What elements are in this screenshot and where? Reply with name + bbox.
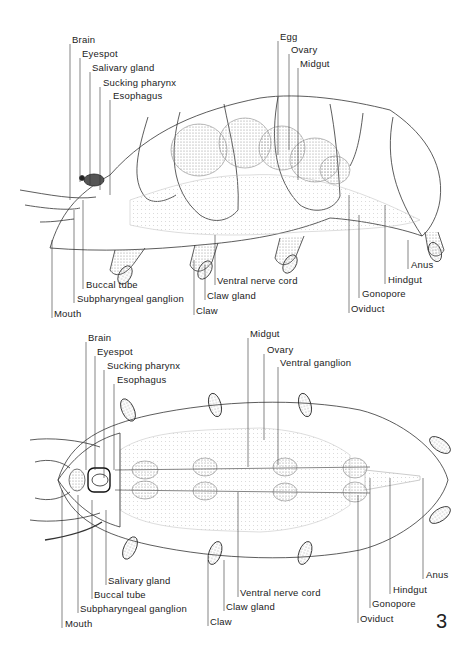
label-gonopore: Gonopore xyxy=(362,288,406,299)
label-anus: Anus xyxy=(426,569,448,580)
label-esophagus: Esophagus xyxy=(113,90,162,101)
anatomy-illustration xyxy=(0,0,473,664)
label-salivary-gland: Salivary gland xyxy=(108,575,170,586)
label-egg: Egg xyxy=(280,31,298,42)
label-claw-gland: Claw gland xyxy=(226,601,275,612)
label-anus: Anus xyxy=(411,259,433,270)
label-buccal-tube: Buccal tube xyxy=(86,279,138,290)
label-hindgut: Hindgut xyxy=(388,274,422,285)
label-ovary: Ovary xyxy=(267,344,293,355)
label-sucking-pharynx: Sucking pharynx xyxy=(107,360,180,371)
label-ventral-nerve-cord: Ventral nerve cord xyxy=(240,587,321,598)
label-midgut: Midgut xyxy=(300,58,330,69)
label-claw-gland: Claw gland xyxy=(207,290,256,301)
label-oviduct: Oviduct xyxy=(351,303,385,314)
label-midgut: Midgut xyxy=(250,328,280,339)
label-gonopore: Gonopore xyxy=(372,598,416,609)
label-brain: Brain xyxy=(72,34,95,45)
label-salivary-gland: Salivary gland xyxy=(92,62,154,73)
label-mouth: Mouth xyxy=(54,308,81,319)
figure-number: 3 xyxy=(436,610,447,633)
label-brain: Brain xyxy=(88,332,111,343)
label-subpharyngeal-ganglion: Subpharyngeal ganglion xyxy=(77,293,184,304)
label-ovary: Ovary xyxy=(291,44,317,55)
label-subpharyngeal-ganglion: Subpharyngeal ganglion xyxy=(80,603,187,614)
label-ventral-nerve-cord: Ventral nerve cord xyxy=(217,275,298,286)
label-mouth: Mouth xyxy=(65,618,92,629)
tardigrade-anatomy-figure: Brain Eyespot Salivary gland Sucking pha… xyxy=(0,0,473,664)
lateral-view xyxy=(20,96,444,287)
label-eyespot: Eyespot xyxy=(97,346,133,357)
label-sucking-pharynx: Sucking pharynx xyxy=(103,77,176,88)
label-claw: Claw xyxy=(196,305,218,316)
label-hindgut: Hindgut xyxy=(393,584,427,595)
label-eyespot: Eyespot xyxy=(82,48,118,59)
label-ventral-ganglion: Ventral ganglion xyxy=(280,357,351,368)
label-esophagus: Esophagus xyxy=(117,374,166,385)
label-oviduct: Oviduct xyxy=(360,613,394,624)
label-buccal-tube: Buccal tube xyxy=(94,589,146,600)
label-claw: Claw xyxy=(210,616,232,627)
